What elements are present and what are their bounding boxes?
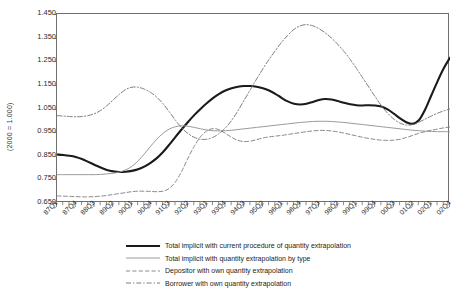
- plot-area: [56, 13, 449, 202]
- y-tick-label: 1.050: [16, 104, 56, 112]
- legend-item: Depositor with own quantity extrapolatio…: [126, 265, 456, 276]
- y-axis-title: (2000 = 1.000): [2, 62, 16, 192]
- y-tick-label: 1.450: [16, 9, 56, 17]
- legend-item: Borrower with own quantity extrapolation: [126, 278, 456, 289]
- line-chart: (2000 = 1.000) 1.4501.3501.2501.1501.050…: [0, 0, 467, 290]
- y-tick-mark: [54, 61, 57, 62]
- y-tick-label: 0.750: [16, 174, 56, 182]
- legend-label: Total implicit with current procedure of…: [165, 242, 351, 249]
- legend-item: Total implicit with quantity extrapolati…: [126, 253, 456, 264]
- y-tick-label: 1.150: [16, 80, 56, 88]
- legend: Total implicit with current procedure of…: [126, 240, 456, 290]
- series-line-3: [57, 25, 450, 140]
- y-tick-label: 1.250: [16, 56, 56, 64]
- y-tick-mark: [54, 109, 57, 110]
- legend-item: Total implicit with current procedure of…: [126, 240, 456, 251]
- series-line-2: [57, 127, 450, 197]
- legend-line-swatch: [126, 253, 160, 263]
- y-tick-label: 0.850: [16, 151, 56, 159]
- legend-line-swatch: [126, 278, 160, 288]
- legend-line-swatch: [126, 241, 160, 251]
- y-tick-label: 0.650: [16, 198, 56, 206]
- series-line-0: [57, 58, 450, 172]
- y-tick-mark: [54, 179, 57, 180]
- legend-line-swatch: [126, 266, 160, 276]
- legend-label: Depositor with own quantity extrapolatio…: [165, 267, 293, 274]
- x-axis-ticks: [56, 202, 450, 208]
- y-tick-mark: [54, 85, 57, 86]
- y-axis-tick-labels: 1.4501.3501.2501.1501.0500.9500.8500.750…: [16, 0, 56, 290]
- plot-lines: [57, 14, 450, 203]
- y-tick-mark: [54, 132, 57, 133]
- legend-label: Total implicit with quantity extrapolati…: [165, 255, 311, 262]
- y-tick-mark: [54, 156, 57, 157]
- y-tick-label: 1.350: [16, 33, 56, 41]
- y-tick-mark: [54, 38, 57, 39]
- y-tick-mark: [54, 14, 57, 15]
- series-line-1: [57, 121, 450, 174]
- y-tick-label: 0.950: [16, 127, 56, 135]
- legend-label: Borrower with own quantity extrapolation: [165, 280, 291, 287]
